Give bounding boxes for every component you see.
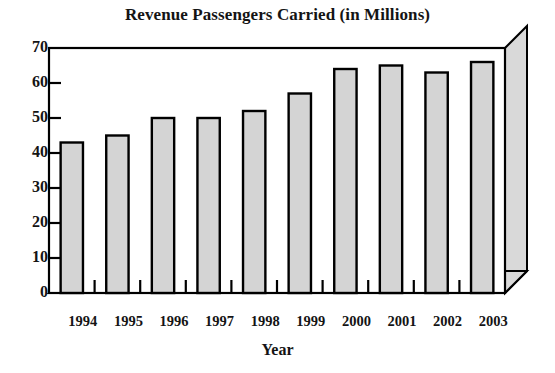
x-axis-tick-label: 1997: [197, 312, 243, 330]
x-axis-tick-label: 2001: [379, 312, 425, 330]
x-axis-tick-label: 1999: [288, 312, 334, 330]
bar: [61, 143, 83, 294]
bar: [243, 111, 265, 293]
x-axis-tick-label: 2002: [425, 312, 471, 330]
x-axis-tick-label: 1996: [151, 312, 197, 330]
bar: [471, 62, 493, 293]
x-axis-tick-label: 1994: [60, 312, 106, 330]
bar: [106, 136, 128, 294]
bar: [334, 69, 356, 293]
x-axis-tick-label: 2000: [334, 312, 380, 330]
chart-container: Revenue Passengers Carried (in Millions)…: [0, 0, 555, 373]
x-axis-tick-label: 1998: [242, 312, 288, 330]
bar: [152, 118, 174, 293]
x-axis-tick-label: 1995: [106, 312, 152, 330]
x-axis-title: Year: [0, 341, 555, 359]
bar: [197, 118, 219, 293]
x-axis-tick-labels: 1994199519961997199819992000200120022003: [0, 312, 555, 334]
plot-depth-right-panel: [505, 26, 527, 293]
bar: [289, 94, 311, 294]
bar: [425, 73, 447, 294]
x-axis-tick-label: 2003: [470, 312, 516, 330]
bar: [380, 66, 402, 294]
